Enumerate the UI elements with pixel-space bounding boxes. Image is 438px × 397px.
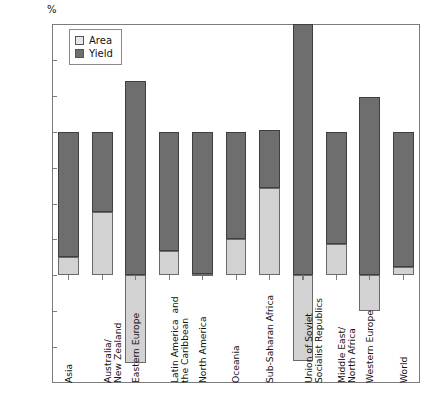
legend-label-yield: Yield [89, 49, 113, 59]
chart-root: % 1751501251007550250−25−50−75 Area Yiel… [0, 0, 438, 397]
x-axis-category-label: North America [198, 273, 208, 383]
bar-segment-yield [259, 130, 280, 187]
bar-segment-yield [58, 132, 79, 257]
bar-segment-yield [393, 132, 414, 267]
bar-segment-area [259, 188, 280, 276]
legend-item-yield: Yield [75, 47, 113, 60]
bar-segment-area [226, 239, 247, 275]
x-axis-category-label: Union of Soviet Socialist Republics [304, 273, 325, 383]
x-axis-category-label: Eastern Europe [131, 273, 141, 383]
x-axis-category-label: Sub-Saharan Africa [265, 273, 275, 383]
legend-label-area: Area [89, 36, 112, 46]
bar-segment-area [92, 212, 113, 275]
bar-segment-area [326, 244, 347, 276]
legend-swatch-yield-icon [75, 49, 84, 58]
legend-swatch-area-icon [75, 36, 84, 45]
x-axis-category-label: World [399, 273, 409, 383]
bar-segment-yield [92, 132, 113, 212]
bar-segment-yield [293, 24, 314, 275]
x-axis-category-label: Latin America and the Caribbean [170, 273, 191, 383]
bar-segment-yield [326, 132, 347, 244]
x-axis-category-label: Australia/ New Zealand [103, 273, 124, 383]
bar-segment-area [159, 251, 180, 275]
bar-segment-yield [125, 81, 146, 275]
chart-legend: Area Yield [69, 29, 122, 65]
x-axis-category-label: Western Europe [365, 273, 375, 383]
x-axis-category-label: Middle East/ North Africa [337, 273, 358, 383]
x-axis-category-label: Oceania [231, 273, 241, 383]
bar-segment-yield [226, 132, 247, 240]
bar-segment-yield [359, 97, 380, 275]
legend-item-area: Area [75, 34, 113, 47]
bar-segment-yield [159, 132, 180, 251]
bar-segment-yield [192, 132, 213, 274]
x-axis-category-label: Asia [64, 273, 74, 383]
y-axis: 1751501251007550250−25−50−75 [0, 0, 52, 397]
